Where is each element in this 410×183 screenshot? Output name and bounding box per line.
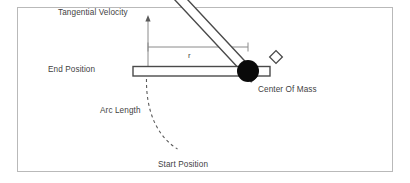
label-center-of-mass: Center Of Mass [258,85,317,94]
label-start-position: Start Position [158,160,208,169]
center-of-mass-marker [237,60,259,82]
label-arc-length: Arc Length [100,106,141,115]
physics-diagram [0,0,410,183]
label-end-position: End Position [48,65,95,74]
label-tangential-velocity: Tangential Velocity [58,8,128,17]
label-radius: r [188,51,191,60]
diagram-canvas: Tangential Velocity End Position Center … [0,0,410,183]
